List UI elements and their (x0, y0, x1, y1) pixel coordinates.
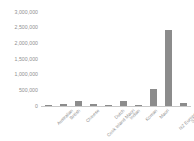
x-axis: AustralianBritishChineseCook Island Maor… (41, 108, 191, 141)
bar-slot (41, 12, 56, 106)
bar[interactable] (75, 101, 83, 106)
bar-slot (56, 12, 71, 106)
y-axis: 0500,0001,000,0001,500,0002,000,0002,500… (0, 0, 40, 141)
bar-slot (146, 12, 161, 106)
bar-slot (86, 12, 101, 106)
bar-slot (71, 12, 86, 106)
bar[interactable] (120, 101, 128, 106)
bar[interactable] (105, 105, 113, 106)
plot-area (41, 12, 191, 107)
x-axis-baseline (41, 106, 191, 107)
y-axis-tick-label: 0 (35, 104, 38, 109)
bar-slot (116, 12, 131, 106)
y-axis-tick-label: 2,000,000 (14, 42, 38, 47)
bar[interactable] (180, 103, 188, 106)
x-axis-tick-label: Chinese (84, 108, 99, 123)
y-axis-tick-label: 500,000 (19, 89, 38, 94)
bar[interactable] (60, 104, 68, 106)
bar[interactable] (165, 30, 173, 106)
x-axis-tick-label: Maori (158, 108, 170, 120)
x-axis-tick-label: Korean (144, 108, 158, 122)
y-axis-tick-label: 3,000,000 (14, 10, 38, 15)
bar-slot (161, 12, 176, 106)
bar-slot (131, 12, 146, 106)
bar-slot (101, 12, 116, 106)
bar[interactable] (150, 89, 158, 106)
y-axis-tick-label: 2,500,000 (14, 26, 38, 31)
bar-chart: 0500,0001,000,0001,500,0002,000,0002,500… (0, 0, 194, 141)
bar[interactable] (90, 104, 98, 106)
y-axis-tick-label: 1,000,000 (14, 73, 38, 78)
bar[interactable] (45, 105, 53, 106)
y-axis-tick-label: 1,500,000 (14, 57, 38, 62)
bar-slot (176, 12, 191, 106)
bar[interactable] (135, 105, 143, 106)
